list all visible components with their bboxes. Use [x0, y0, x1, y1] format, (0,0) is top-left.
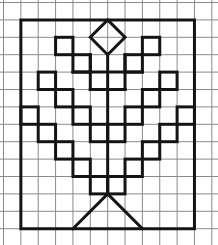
outlined-cell — [73, 55, 90, 72]
outlined-cell — [108, 177, 125, 194]
outlined-cell — [160, 124, 177, 141]
outlined-cell — [125, 107, 142, 124]
outlined-cell — [142, 37, 159, 54]
outlined-cell — [125, 159, 142, 176]
outlined-cell — [38, 124, 55, 141]
outlined-cell — [160, 72, 177, 89]
outlined-cell — [38, 72, 55, 89]
outlined-cell — [21, 107, 38, 124]
outlined-cell — [142, 142, 159, 159]
outlined-cell — [56, 142, 73, 159]
outlined-cell — [56, 90, 73, 107]
outlined-cell — [73, 159, 90, 176]
outlined-cell — [177, 107, 194, 124]
outlined-cell — [56, 37, 73, 54]
outlined-cell — [108, 124, 125, 141]
outlined-cell — [73, 107, 90, 124]
outlined-cell — [125, 55, 142, 72]
outlined-cell — [142, 90, 159, 107]
outlined-cell — [90, 177, 107, 194]
outlined-cell — [90, 124, 107, 141]
grid-tree-pattern — [0, 0, 218, 245]
